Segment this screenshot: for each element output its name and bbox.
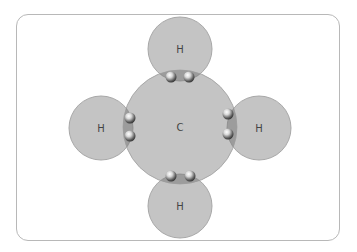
electron-right-2: [223, 129, 234, 140]
electron-bottom-1: [166, 171, 177, 182]
carbon-label: C: [177, 122, 184, 133]
hydrogen-label-right: H: [255, 123, 263, 134]
hydrogen-label-top: H: [176, 44, 184, 55]
electron-right-1: [223, 109, 234, 120]
electron-left-1: [125, 113, 136, 124]
hydrogen-label-left: H: [97, 123, 105, 134]
electron-left-2: [125, 131, 136, 142]
methane-bonding-diagram: HHHHC: [0, 0, 357, 252]
hydrogen-label-bottom: H: [176, 201, 184, 212]
electron-bottom-2: [185, 171, 196, 182]
electron-top-1: [166, 72, 177, 83]
electron-top-2: [184, 72, 195, 83]
